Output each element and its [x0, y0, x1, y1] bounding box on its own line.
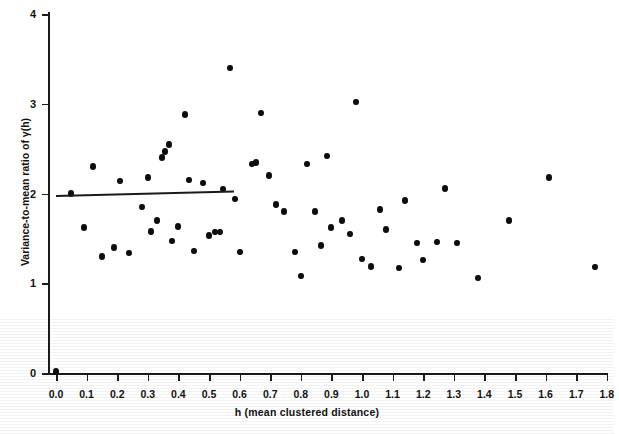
- data-point: [281, 208, 287, 215]
- x-tick-label: 0.2: [100, 388, 134, 400]
- x-tick-label: 1.2: [406, 388, 440, 400]
- x-axis-title: h (mean clustered distance): [0, 406, 614, 418]
- data-point: [253, 159, 259, 166]
- x-tick-label: 0.5: [192, 388, 226, 400]
- data-point: [145, 174, 151, 181]
- x-tick-label: 1.7: [559, 388, 593, 400]
- y-tick-mark: [42, 283, 49, 285]
- x-tick-label: 1.1: [376, 388, 410, 400]
- data-point: [111, 244, 117, 251]
- x-tick-mark: [454, 374, 456, 381]
- trend-line: [56, 191, 234, 197]
- data-point: [186, 177, 192, 184]
- x-tick-label: 0.9: [314, 388, 348, 400]
- data-point: [258, 110, 264, 117]
- data-point: [200, 180, 206, 187]
- data-point: [347, 231, 353, 238]
- data-point: [592, 264, 598, 271]
- x-tick-mark: [209, 374, 211, 381]
- x-tick-label: 1.0: [345, 388, 379, 400]
- data-point: [227, 65, 233, 72]
- x-tick-mark: [148, 374, 150, 381]
- x-tick-mark: [576, 374, 578, 381]
- data-point: [273, 201, 279, 208]
- y-tick-mark: [42, 373, 49, 375]
- data-point: [81, 224, 87, 231]
- data-point: [206, 232, 212, 239]
- data-point: [434, 239, 440, 246]
- data-point: [353, 99, 359, 106]
- data-point: [90, 163, 96, 170]
- data-point: [117, 178, 123, 185]
- data-point: [166, 141, 172, 148]
- x-tick-mark: [607, 374, 609, 381]
- x-tick-label: 1.3: [437, 388, 471, 400]
- x-tick-mark: [270, 374, 272, 381]
- x-tick-label: 0.3: [131, 388, 165, 400]
- x-tick-label: 0.8: [284, 388, 318, 400]
- x-tick-mark: [546, 374, 548, 381]
- x-tick-mark: [117, 374, 119, 381]
- data-point: [402, 197, 408, 204]
- x-tick-mark: [178, 374, 180, 381]
- x-tick-mark: [362, 374, 364, 381]
- x-tick-label: 0.4: [161, 388, 195, 400]
- data-point: [475, 275, 481, 282]
- x-tick-label: 1.6: [529, 388, 563, 400]
- data-point: [148, 228, 154, 235]
- x-tick-mark: [240, 374, 242, 381]
- data-point: [304, 161, 310, 168]
- data-point: [383, 226, 389, 233]
- data-point: [312, 208, 318, 215]
- x-tick-mark: [484, 374, 486, 381]
- data-point: [324, 153, 330, 160]
- data-point: [339, 217, 345, 224]
- data-point: [162, 148, 168, 155]
- x-tick-label: 1.4: [467, 388, 501, 400]
- data-point: [237, 249, 243, 256]
- x-tick-mark: [301, 374, 303, 381]
- data-point: [377, 206, 383, 213]
- x-tick-label: 0.7: [253, 388, 287, 400]
- y-tick-label: 4: [14, 9, 36, 19]
- x-tick-label: 0.6: [223, 388, 257, 400]
- data-point: [442, 185, 448, 192]
- data-point: [191, 248, 197, 255]
- data-point: [154, 217, 160, 224]
- data-point: [414, 240, 420, 247]
- data-point: [266, 172, 272, 179]
- data-point: [396, 265, 402, 272]
- x-tick-label: 1.5: [498, 388, 532, 400]
- data-point: [546, 174, 552, 181]
- data-point: [359, 256, 365, 263]
- data-point: [175, 223, 181, 230]
- data-point: [217, 229, 223, 236]
- x-tick-label: 0.0: [39, 388, 73, 400]
- data-point: [53, 368, 59, 375]
- x-tick-label: 1.8: [590, 388, 619, 400]
- x-tick-mark: [393, 374, 395, 381]
- y-tick-mark: [42, 104, 49, 106]
- x-tick-mark: [56, 374, 58, 381]
- y-tick-mark: [42, 14, 49, 16]
- data-point: [126, 250, 132, 257]
- data-point: [159, 154, 165, 161]
- data-point: [232, 196, 238, 203]
- x-tick-mark: [423, 374, 425, 381]
- data-point: [318, 242, 324, 249]
- data-point: [139, 204, 145, 211]
- data-point: [454, 240, 460, 247]
- data-point: [298, 273, 304, 280]
- data-point: [182, 111, 188, 118]
- data-point: [99, 253, 105, 260]
- x-tick-label: 0.1: [70, 388, 104, 400]
- x-tick-mark: [515, 374, 517, 381]
- y-tick-mark: [42, 194, 49, 196]
- x-tick-mark: [87, 374, 89, 381]
- data-point: [506, 217, 512, 224]
- data-point: [368, 263, 374, 270]
- x-axis-line: [48, 373, 608, 375]
- data-point: [420, 257, 426, 264]
